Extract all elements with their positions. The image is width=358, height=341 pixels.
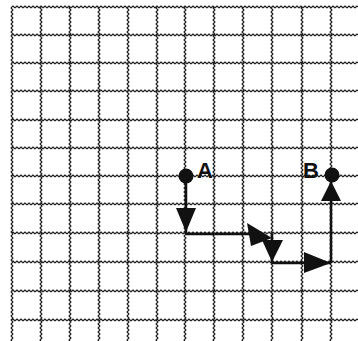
path-arrows [176, 176, 341, 273]
grid-line-vertical [213, 7, 215, 341]
grid-line-vertical [69, 7, 71, 341]
arrowhead-up-icon [321, 181, 341, 201]
grid-line-vertical [98, 7, 100, 341]
grid-line-vertical [127, 7, 129, 341]
arrowhead-right-icon [304, 252, 331, 273]
grid-line-vertical [40, 7, 42, 341]
arrowhead-down-icon [262, 240, 283, 262]
grid-line-vertical [156, 7, 158, 341]
point-b-dot [325, 168, 340, 183]
arrowhead-down-icon [176, 208, 196, 232]
point-a-dot [179, 169, 194, 184]
grid-line-vertical [271, 7, 273, 341]
grid-line-vertical [11, 7, 13, 341]
grid-line-vertical [242, 7, 244, 341]
grid-path-diagram: A B [0, 0, 358, 341]
point-a-label: A [197, 158, 213, 183]
point-b-label: B [303, 158, 319, 183]
